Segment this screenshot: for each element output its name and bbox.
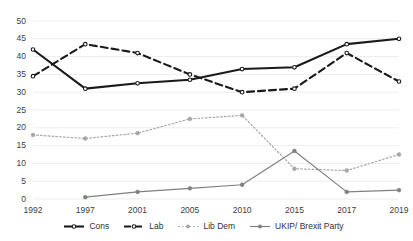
data-point — [240, 90, 244, 94]
data-point — [240, 183, 244, 187]
data-point — [188, 78, 192, 82]
data-point — [240, 67, 244, 71]
data-point — [397, 80, 401, 84]
data-point — [83, 195, 87, 199]
legend-swatch-icon — [177, 222, 199, 231]
legend-label: Cons — [89, 222, 109, 231]
data-point — [345, 169, 349, 173]
data-point — [83, 87, 87, 91]
data-point — [293, 149, 297, 153]
data-point — [136, 82, 140, 86]
data-point — [83, 42, 87, 46]
series-line-lib-dem — [33, 115, 399, 170]
legend-label: Lib Dem — [203, 222, 235, 231]
data-point — [188, 186, 192, 190]
legend-item-cons[interactable]: Cons — [63, 222, 109, 231]
series-line-cons — [33, 39, 399, 89]
data-point — [31, 74, 35, 78]
legend-swatch-icon — [249, 222, 271, 231]
data-point — [31, 48, 35, 52]
data-point — [136, 131, 140, 135]
data-point — [136, 190, 140, 194]
data-point — [397, 37, 401, 41]
legend-swatch-icon — [63, 222, 85, 231]
data-point — [136, 51, 140, 55]
legend-item-lab[interactable]: Lab — [123, 222, 163, 231]
data-point — [293, 65, 297, 69]
data-point — [240, 113, 244, 117]
data-point — [188, 117, 192, 121]
legend-item-lib-dem[interactable]: Lib Dem — [177, 222, 235, 231]
series-line-ukip-brexit-party — [85, 151, 399, 197]
series-line-lab — [33, 44, 399, 92]
legend-label: UKIP/ Brexit Party — [275, 222, 344, 231]
data-point — [345, 190, 349, 194]
data-point — [31, 133, 35, 137]
data-point — [83, 137, 87, 141]
data-point — [293, 87, 297, 91]
data-point — [397, 153, 401, 157]
legend-swatch-icon — [123, 222, 145, 231]
chart-legend: ConsLabLib DemUKIP/ Brexit Party — [0, 222, 407, 231]
data-point — [293, 167, 297, 171]
legend-item-ukip-brexit-party[interactable]: UKIP/ Brexit Party — [249, 222, 344, 231]
data-point — [188, 73, 192, 77]
data-point — [345, 51, 349, 55]
data-point — [345, 42, 349, 46]
legend-label: Lab — [149, 222, 163, 231]
data-point — [397, 188, 401, 192]
